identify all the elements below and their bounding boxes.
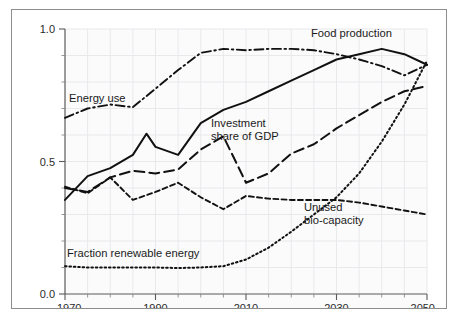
label-unused-line2: bio-capacity [304, 214, 364, 226]
x-tick-label: 2030 [324, 302, 348, 308]
label-investment-line2: share of GDP [211, 130, 279, 142]
y-tick-label: 1.0 [40, 23, 55, 35]
x-tick-label: 2050 [411, 302, 435, 308]
y-tick-label: 0.5 [40, 156, 55, 168]
chart-frame: 0.00.51.0 19701990201020302050 Food prod… [11, 9, 447, 309]
figure-root: 0.00.51.0 19701990201020302050 Food prod… [0, 0, 458, 327]
y-axis-tick-labels: 0.00.51.0 [40, 23, 55, 300]
label-energy-use: Energy use [69, 92, 126, 104]
x-tick-label: 2010 [234, 302, 258, 308]
y-tick-label: 0.0 [40, 288, 55, 300]
label-unused-line1: Unused [304, 201, 343, 213]
label-fraction-renewable: Fraction renewable energy [67, 247, 200, 259]
chart-canvas: 0.00.51.0 19701990201020302050 Food prod… [12, 10, 446, 308]
label-food-production: Food production [311, 27, 392, 39]
x-tick-label: 1970 [57, 302, 81, 308]
x-tick-label: 1990 [143, 302, 167, 308]
label-investment-line1: Investment [211, 117, 267, 129]
